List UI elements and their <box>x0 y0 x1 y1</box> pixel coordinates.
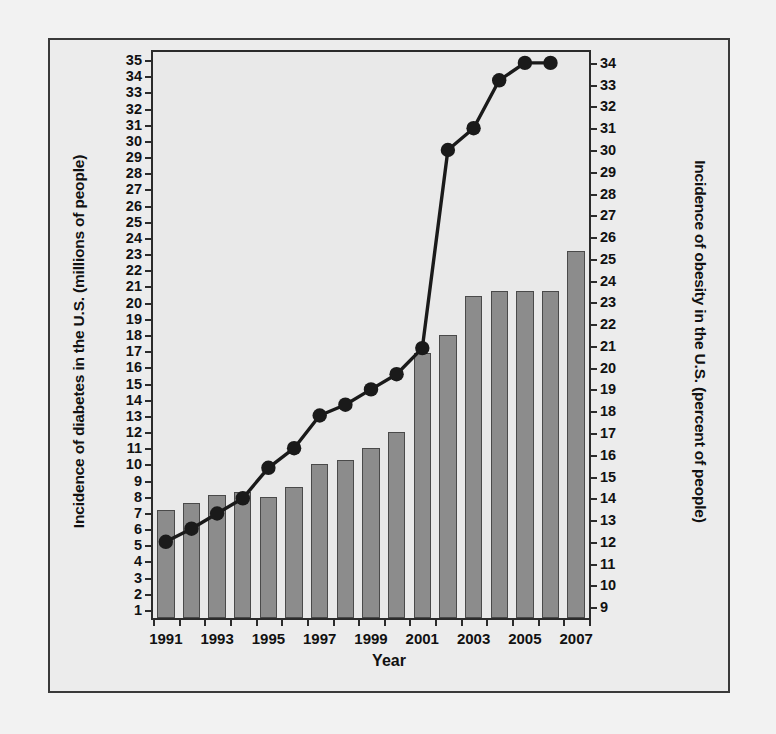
y-axis-right-tick-label: 18 <box>600 404 616 419</box>
y-axis-left-tick <box>145 270 153 272</box>
y-axis-left-tick-label: 25 <box>126 215 142 230</box>
y-axis-left-tick <box>145 157 153 159</box>
y-axis-left-tick <box>145 286 153 288</box>
y-axis-left-tick-label: 19 <box>126 312 142 327</box>
y-axis-right-tick-label: 33 <box>600 78 616 93</box>
line-marker <box>389 367 403 381</box>
y-axis-right-tick-label: 16 <box>600 448 616 463</box>
y-axis-right-tick-label: 34 <box>600 56 616 71</box>
bar <box>157 510 174 618</box>
bar <box>183 503 200 618</box>
y-axis-right-tick <box>589 172 597 174</box>
y-axis-right-title: Incidence of obesity in the U.S. (percen… <box>691 132 710 552</box>
y-axis-right-tick <box>589 542 597 544</box>
y-axis-left-tick-label: 17 <box>126 344 142 359</box>
y-axis-right-tick-label: 17 <box>600 426 616 441</box>
y-axis-left-tick <box>145 335 153 337</box>
y-axis-left-tick-label: 21 <box>126 279 142 294</box>
line-marker <box>261 461 275 475</box>
x-axis-tick-label: 1997 <box>303 630 336 647</box>
y-axis-left-tick-label: 35 <box>126 53 142 68</box>
x-axis-tick <box>384 618 386 626</box>
x-axis-tick-label: 2007 <box>559 630 592 647</box>
y-axis-left-tick <box>145 481 153 483</box>
bar <box>260 497 277 618</box>
y-axis-left-tick <box>145 254 153 256</box>
x-axis-tick <box>256 618 258 626</box>
y-axis-right-tick <box>589 324 597 326</box>
y-axis-left-tick-label: 16 <box>126 360 142 375</box>
y-axis-right-tick-label: 13 <box>600 513 616 528</box>
y-axis-left-tick-label: 14 <box>126 393 142 408</box>
y-axis-right-tick-label: 10 <box>600 578 616 593</box>
x-axis-tick <box>333 618 335 626</box>
y-axis-left-tick-label: 12 <box>126 425 142 440</box>
y-axis-right-tick <box>589 433 597 435</box>
y-axis-left-tick-label: 18 <box>126 328 142 343</box>
x-axis-tick <box>538 618 540 626</box>
y-axis-right-tick-label: 19 <box>600 382 616 397</box>
x-axis-tick <box>512 618 514 626</box>
y-axis-right-tick <box>589 455 597 457</box>
y-axis-right-tick-label: 27 <box>600 208 616 223</box>
line-marker <box>543 56 557 70</box>
y-axis-right-tick-label: 26 <box>600 230 616 245</box>
y-axis-right-tick-label: 21 <box>600 339 616 354</box>
y-axis-left-tick <box>145 92 153 94</box>
y-axis-right-tick-label: 22 <box>600 317 616 332</box>
y-axis-left-tick <box>145 125 153 127</box>
bar <box>439 335 456 618</box>
y-axis-right-tick-label: 23 <box>600 295 616 310</box>
y-axis-right-tick <box>589 346 597 348</box>
y-axis-right-tick-label: 11 <box>600 557 615 572</box>
bar <box>465 296 482 618</box>
x-axis-tick <box>204 618 206 626</box>
y-axis-right-tick <box>589 128 597 130</box>
y-axis-right-tick-label: 12 <box>600 535 616 550</box>
y-axis-right-tick-label: 20 <box>600 361 616 376</box>
line-marker <box>518 56 532 70</box>
y-axis-left-tick <box>145 319 153 321</box>
line-marker <box>287 441 301 455</box>
y-axis-right-tick-label: 25 <box>600 252 616 267</box>
y-axis-left-tick <box>145 238 153 240</box>
bar <box>311 464 328 618</box>
x-axis-tick <box>435 618 437 626</box>
y-axis-right-tick-label: 9 <box>600 600 608 615</box>
y-axis-left-tick-label: 2 <box>134 587 142 602</box>
y-axis-right-tick-label: 32 <box>600 99 616 114</box>
y-axis-left-tick <box>145 497 153 499</box>
x-axis-tick <box>230 618 232 626</box>
y-axis-left-tick-label: 4 <box>134 554 142 569</box>
y-axis-left-tick <box>145 561 153 563</box>
y-axis-right-tick <box>589 63 597 65</box>
plot-area: 1234567891011121314151617181920212223242… <box>151 50 591 620</box>
y-axis-left-tick-label: 29 <box>126 150 142 165</box>
line-marker <box>313 408 327 422</box>
x-axis-tick <box>461 618 463 626</box>
y-axis-right-tick <box>589 237 597 239</box>
y-axis-left-tick <box>145 189 153 191</box>
y-axis-right-tick-label: 24 <box>600 274 616 289</box>
y-axis-right-tick-label: 28 <box>600 187 616 202</box>
y-axis-left-tick <box>145 464 153 466</box>
x-axis-tick <box>153 618 155 626</box>
y-axis-left-tick <box>145 384 153 386</box>
x-axis-tick-label: 1995 <box>252 630 285 647</box>
y-axis-left-tick <box>145 109 153 111</box>
y-axis-right-tick <box>589 498 597 500</box>
bar <box>516 291 533 618</box>
y-axis-left-tick-label: 22 <box>126 263 142 278</box>
y-axis-left-tick-label: 3 <box>134 571 142 586</box>
bar <box>414 353 431 618</box>
y-axis-right-tick <box>589 607 597 609</box>
x-axis-tick <box>358 618 360 626</box>
line-marker <box>338 398 352 412</box>
x-axis-tick <box>563 618 565 626</box>
y-axis-left-tick-label: 24 <box>126 231 142 246</box>
y-axis-left-tick <box>145 513 153 515</box>
y-axis-left-tick-label: 30 <box>126 134 142 149</box>
y-axis-right-tick <box>589 368 597 370</box>
y-axis-left-tick-label: 20 <box>126 296 142 311</box>
line-marker <box>492 73 506 87</box>
